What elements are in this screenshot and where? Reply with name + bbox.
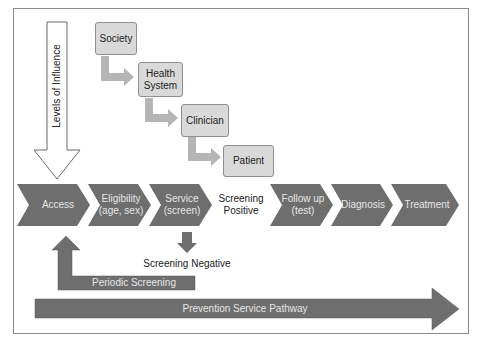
screening-negative-arrow-icon xyxy=(177,232,197,253)
periodic-screening-label: Periodic Screening xyxy=(92,277,176,289)
step-label-eligibility: Eligibility (age, sex) xyxy=(99,193,143,217)
connector-arrow-icon xyxy=(145,98,178,127)
level-box-clinician: Clinician xyxy=(181,104,229,137)
step-label-diagnosis: Diagnosis xyxy=(341,199,385,211)
prevention-pathway-label: Prevention Service Pathway xyxy=(182,303,307,315)
screening-negative-label: Screening Negative xyxy=(143,258,230,270)
step-label-treatment: Treatment xyxy=(404,199,449,211)
level-label-clinician: Clinician xyxy=(186,115,224,127)
level-label-patient: Patient xyxy=(233,155,264,167)
level-label-society: Society xyxy=(100,33,133,45)
connector-arrow-icon xyxy=(101,56,134,86)
step-label-follow-up: Follow up (test) xyxy=(282,193,325,217)
screening-positive-label: Screening Positive xyxy=(218,193,263,217)
level-box-health-system: Health System xyxy=(138,62,183,97)
connector-arrow-icon xyxy=(188,137,221,166)
step-label-access: Access xyxy=(42,199,74,211)
level-box-patient: Patient xyxy=(223,145,274,177)
step-label-service: Service (screen) xyxy=(164,193,201,217)
level-box-society: Society xyxy=(95,22,137,55)
level-label-health-system: Health System xyxy=(144,68,177,92)
levels-of-influence-label: Levels of Influence xyxy=(51,44,63,127)
